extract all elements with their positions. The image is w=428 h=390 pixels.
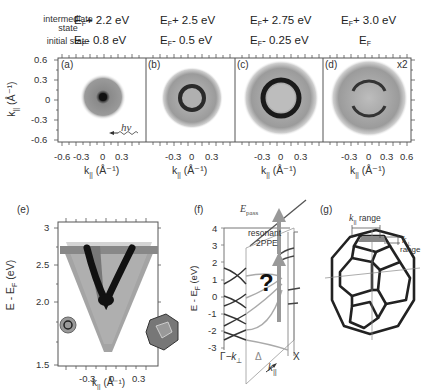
x-tick: 0.3 (294, 151, 307, 162)
panel-label-c: (c) (237, 59, 249, 70)
x-axis-label-b: k|| (Å⁻¹) (172, 164, 207, 178)
x-tick: 0.3 (132, 373, 145, 384)
y-tick: -3 (208, 342, 216, 353)
x-point-label: X (293, 351, 300, 362)
panel-label-g: (g) (320, 204, 332, 215)
inset-brillouin-zone-icon (146, 314, 178, 350)
x-tick: 0 (189, 151, 194, 162)
momentum-map-d (330, 59, 408, 137)
x-tick: 0.3 (205, 151, 218, 162)
x-axis-label-a: k|| (Å⁻¹) (84, 164, 119, 178)
panel-label-e: (e) (17, 204, 29, 215)
inset-momentum-map-icon (60, 317, 76, 333)
x-tick: 0 (366, 151, 371, 162)
k-parallel-range-label: k|| range (349, 212, 381, 225)
panel-label-f: (f) (194, 204, 203, 215)
y-axis-label-top: k|| (Å⁻¹) (5, 81, 19, 116)
k-parallel-label: k|| (268, 362, 277, 375)
e-pass-label: Epass (240, 203, 258, 217)
y-tick: 2.0 (36, 296, 49, 307)
x-tick: 0.6 (400, 151, 413, 162)
y-tick: 0.6 (34, 54, 47, 65)
y-tick: 1 (212, 274, 217, 285)
y-tick: 0 (45, 94, 50, 105)
k-perp-range-label: range (400, 245, 420, 254)
y-axis-label-f: E - EF (eV) (188, 266, 201, 312)
x-tick: -0.3 (254, 151, 270, 162)
x-tick: 0.3 (380, 151, 393, 162)
scale-note-x2: x2 (397, 59, 408, 70)
y-tick: 0.3 (34, 74, 47, 85)
y-tick: 0 (212, 291, 217, 302)
panel-label-b: (b) (148, 59, 160, 70)
y-tick: 4 (212, 223, 217, 234)
momentum-map-b (161, 67, 223, 129)
k-range-shading (358, 236, 386, 242)
x-tick: -0.3 (73, 151, 89, 162)
momentum-map-a (80, 74, 126, 120)
y-tick: 2.5 (36, 259, 49, 270)
momentum-map-c (243, 60, 319, 136)
panel-label-d: (d) (325, 59, 337, 70)
y-tick: -0.6 (31, 134, 47, 145)
y-axis-label-e: E - EF (eV) (4, 260, 18, 310)
question-mark: ? (259, 269, 274, 297)
panel-label-a: (a) (61, 59, 73, 70)
resonant-label: resonant (248, 228, 281, 238)
x-tick: 0.3 (115, 151, 128, 162)
y-tick: -0.3 (31, 114, 47, 125)
2ppe-label: 2PPE (256, 238, 278, 248)
x-tick: -0.3 (341, 151, 357, 162)
x-tick: -0.6 (54, 151, 70, 162)
y-tick: 2 (212, 257, 217, 268)
x-axis-label-e: k|| (Å⁻¹) (92, 377, 125, 390)
x-tick: 0 (278, 151, 283, 162)
y-tick: -1 (208, 308, 216, 319)
dispersion-panel-e (54, 218, 178, 370)
x-tick: -0.3 (165, 151, 181, 162)
x-tick: 0 (100, 151, 105, 162)
delta-label: Δ (255, 351, 262, 362)
y-tick: -2 (208, 325, 216, 336)
y-tick: 1.5 (36, 359, 49, 370)
photon-label: hν (121, 121, 131, 133)
x-axis-label-c: k|| (Å⁻¹) (261, 164, 296, 178)
gamma-k-perp-label: Γ−k⊥ (220, 351, 242, 365)
y-tick: 3 (212, 240, 217, 251)
y-tick: 3 (44, 222, 49, 233)
x-axis-label-d: k|| (Å⁻¹) (350, 164, 385, 178)
